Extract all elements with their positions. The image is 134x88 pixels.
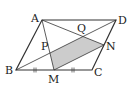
geometry-diagram: A D B C M N P Q: [0, 0, 134, 88]
label-d: D: [118, 14, 127, 27]
label-p: P: [41, 40, 49, 53]
label-c: C: [94, 66, 102, 79]
label-m: M: [48, 73, 59, 86]
label-q: Q: [77, 22, 86, 35]
label-n: N: [106, 40, 116, 53]
label-b: B: [5, 64, 13, 77]
label-a: A: [30, 12, 40, 25]
